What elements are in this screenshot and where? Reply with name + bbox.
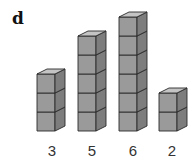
cube-front-face (78, 36, 96, 55)
cube-front-face (119, 74, 137, 93)
column-label-3: 6 (123, 142, 143, 159)
unit-cube (78, 31, 106, 55)
cube-front-face (37, 93, 55, 112)
cube-front-face (119, 17, 137, 36)
cube-front-face (78, 55, 96, 74)
cube-column-3 (119, 12, 147, 131)
cube-columns (0, 0, 193, 165)
cube-column-4 (159, 88, 187, 131)
unit-cube (119, 12, 147, 36)
column-label-1: 3 (42, 142, 62, 159)
cube-column-1 (37, 69, 65, 131)
cube-column-2 (78, 31, 106, 131)
cube-front-face (37, 74, 55, 93)
cube-front-face (78, 74, 96, 93)
cube-front-face (119, 112, 137, 131)
cube-front-face (159, 93, 177, 112)
cube-front-face (119, 55, 137, 74)
cube-front-face (37, 112, 55, 131)
cube-front-face (78, 112, 96, 131)
unit-cube (159, 88, 187, 112)
cube-front-face (119, 36, 137, 55)
cube-front-face (78, 93, 96, 112)
column-label-2: 5 (82, 142, 102, 159)
column-label-4: 2 (162, 142, 182, 159)
unit-cube (37, 69, 65, 93)
cube-front-face (119, 93, 137, 112)
cube-front-face (159, 112, 177, 131)
